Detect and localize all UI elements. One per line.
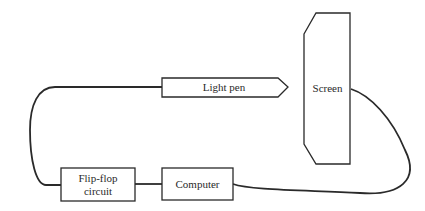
computer-label: Computer (162, 178, 233, 190)
screen-label: Screen (305, 82, 350, 94)
flip-flop-label-line1: Flip-flop (61, 172, 135, 184)
light-pen-label: Light pen (172, 81, 276, 93)
flip-flop-label-line2: circuit (61, 185, 135, 197)
